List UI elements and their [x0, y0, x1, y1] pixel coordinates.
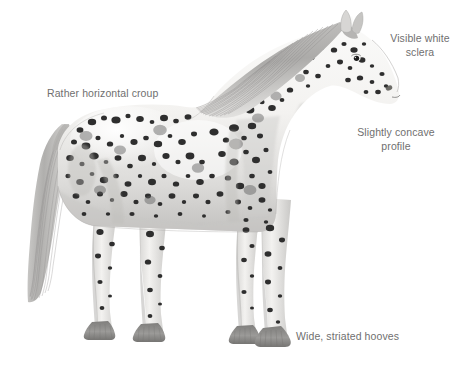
annotation-wide-striated-hooves: Wide, striated hooves	[296, 330, 436, 344]
annotation-slightly-concave-profile: Slightly concave profile	[344, 126, 448, 153]
hoof-near-hind	[133, 323, 166, 342]
figure-canvas: Visible white sclera Slightly concave pr…	[0, 0, 464, 373]
annotation-visible-white-sclera: Visible white sclera	[376, 32, 464, 59]
annotation-rather-horizontal-croup: Rather horizontal croup	[47, 87, 187, 101]
horse-hooves	[84, 321, 291, 347]
